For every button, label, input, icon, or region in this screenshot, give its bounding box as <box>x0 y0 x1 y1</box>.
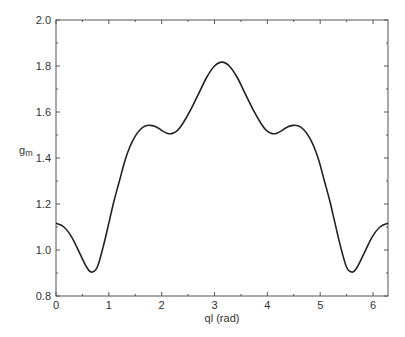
x-tick-label: 4 <box>264 299 270 311</box>
y-tick-label: 0.8 <box>36 290 51 302</box>
x-tick-label: 2 <box>159 299 165 311</box>
x-tick-label: 5 <box>317 299 323 311</box>
y-tick-label: 1.8 <box>36 60 51 72</box>
y-tick-label: 1.2 <box>36 198 51 210</box>
y-axis-label: gm <box>19 144 33 158</box>
y-tick-label: 1.6 <box>36 106 51 118</box>
y-tick-label: 1.0 <box>36 244 51 256</box>
x-tick-label: 3 <box>211 299 217 311</box>
x-axis-label: ql (rad) <box>205 312 240 324</box>
x-tick-label: 1 <box>106 299 112 311</box>
chart: 0.81.01.21.41.61.82.0 0123456 ql (rad) g… <box>0 0 405 337</box>
y-tick-label: 2.0 <box>36 14 51 26</box>
x-tick-label: 0 <box>53 299 59 311</box>
y-axis-label-subscript: m <box>25 148 33 158</box>
x-tick-label: 6 <box>370 299 376 311</box>
y-tick-label: 1.4 <box>36 152 51 164</box>
